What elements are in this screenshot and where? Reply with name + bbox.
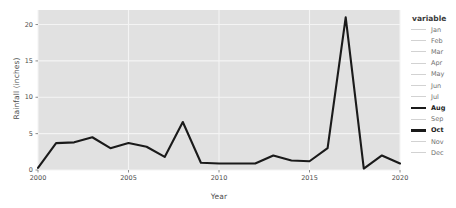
legend-item-nov[interactable]: Nov xyxy=(410,136,444,147)
legend-key-nov-icon xyxy=(410,136,427,147)
x-tick-label: 2010 xyxy=(204,174,234,182)
x-tick-label: 2000 xyxy=(23,174,53,182)
legend-item-label: Jul xyxy=(431,93,439,101)
legend-key-mar-icon xyxy=(410,46,427,57)
legend-item-apr[interactable]: Apr xyxy=(410,58,442,69)
legend-item-label: May xyxy=(431,70,444,78)
legend-item-label: Sep xyxy=(431,115,443,123)
legend-key-jan-icon xyxy=(410,24,427,35)
legend-item-sep[interactable]: Sep xyxy=(410,114,443,125)
legend-key-dec-icon xyxy=(410,147,427,158)
legend-key-feb-icon xyxy=(410,35,427,46)
x-tick-label: 2005 xyxy=(114,174,144,182)
legend-item-label: Oct xyxy=(431,126,444,134)
legend-item-jan[interactable]: Jan xyxy=(410,24,441,35)
legend-key-aug-icon xyxy=(410,102,427,113)
y-tick-label: 20 xyxy=(11,21,33,29)
legend-key-may-icon xyxy=(410,69,427,80)
legend-item-label: Aug xyxy=(431,104,445,112)
y-tick-label: 10 xyxy=(11,93,33,101)
legend-item-oct[interactable]: Oct xyxy=(410,125,444,136)
legend-item-label: Nov xyxy=(431,138,444,146)
legend-item-jun[interactable]: Jun xyxy=(410,80,441,91)
y-tick-label: 0 xyxy=(11,166,33,174)
x-axis-title: Year xyxy=(38,192,400,201)
legend-title: variable xyxy=(412,14,446,23)
legend-item-label: Dec xyxy=(431,149,444,157)
y-tick-label: 5 xyxy=(11,130,33,138)
legend-key-jun-icon xyxy=(410,80,427,91)
legend-item-aug[interactable]: Aug xyxy=(410,102,445,113)
y-tick-label: 15 xyxy=(11,57,33,65)
x-tick-label: 2015 xyxy=(295,174,325,182)
legend-key-apr-icon xyxy=(410,58,427,69)
legend-key-jul-icon xyxy=(410,91,427,102)
legend-item-label: Mar xyxy=(431,48,443,56)
legend-item-may[interactable]: May xyxy=(410,69,444,80)
legend-item-feb[interactable]: Feb xyxy=(410,35,443,46)
legend-item-mar[interactable]: Mar xyxy=(410,46,443,57)
rainfall-line-chart: Rainfall (inches) Year 05101520 20002005… xyxy=(0,0,456,208)
legend-item-label: Jun xyxy=(431,82,441,90)
legend-item-jul[interactable]: Jul xyxy=(410,91,439,102)
legend-item-label: Jan xyxy=(431,26,441,34)
legend-item-dec[interactable]: Dec xyxy=(410,147,444,158)
legend-key-oct-icon xyxy=(410,125,427,136)
legend-key-sep-icon xyxy=(410,114,427,125)
legend-item-label: Feb xyxy=(431,37,443,45)
x-tick-label: 2020 xyxy=(385,174,415,182)
legend-item-label: Apr xyxy=(431,59,442,67)
